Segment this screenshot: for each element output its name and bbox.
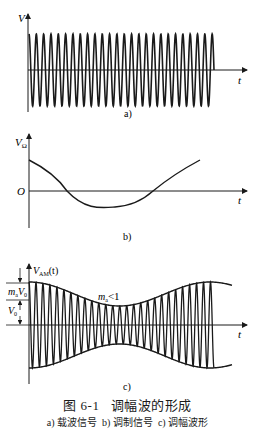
panel-label-a: a)	[124, 108, 132, 120]
panel-label-c: c)	[123, 381, 131, 393]
ma-annotation: ma<1	[98, 290, 120, 303]
subcaption-c: 调幅波形	[168, 414, 208, 429]
figure-number: 图 6-1	[63, 395, 99, 414]
origin-label: O	[17, 185, 25, 197]
panel-c-am: maV0 V0 VAM(t) ma<1 t c)	[6, 264, 247, 393]
y-axis-label-c: VAM(t)	[33, 265, 58, 277]
panel-a-carrier: V t a)	[18, 12, 247, 120]
panel-b-modulating: VΩ O t b)	[15, 134, 247, 243]
figure-caption: 图 6-1 调幅波的形成	[0, 395, 255, 414]
upper-envelope	[29, 282, 232, 306]
figure-svg: V t a) VΩ O t b) maV0 V0 VAM(t) ma<1 t c…	[0, 0, 255, 395]
figure-title: 调幅波的形成	[111, 395, 192, 414]
y-axis-label-a: V	[18, 12, 26, 24]
x-axis-label-b: t	[238, 194, 242, 206]
panel-label-b: b)	[123, 231, 131, 243]
y-axis-label-b: VΩ	[15, 136, 27, 150]
subcaption-a: 载波信号	[57, 414, 97, 429]
subcaption-b: 调制信号	[113, 414, 153, 429]
modulating-wave	[29, 160, 200, 208]
figure-subcaption: a) 载波信号 b) 调制信号 c) 调幅波形	[0, 414, 255, 429]
ma-v0-label: maV0	[8, 286, 27, 298]
v0-label: V0	[8, 305, 17, 317]
x-axis-label-a: t	[238, 74, 242, 86]
x-axis-label-c: t	[238, 328, 242, 340]
